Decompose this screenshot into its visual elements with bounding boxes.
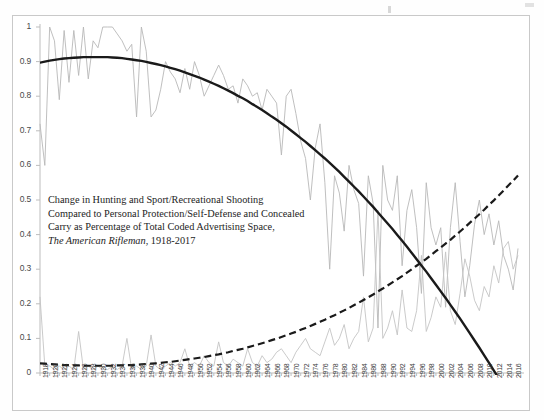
x-axis-tick-label: 1960: [245, 364, 252, 378]
caption-source-title: The American Rifleman: [48, 235, 146, 246]
x-axis-tick-label: 1984: [361, 364, 368, 378]
x-axis-tick-label: 2012: [496, 364, 503, 378]
caption-date-range: , 1918-2017: [146, 235, 196, 246]
x-axis-tick-label: 1950: [197, 364, 204, 378]
x-axis-tick-label: 1968: [283, 364, 290, 378]
x-axis-tick-label: 1990: [390, 364, 397, 378]
chart-figure: 00.10.20.30.40.50.60.70.80.91 1918192019…: [0, 0, 544, 420]
x-axis-tick-label: 1924: [71, 364, 78, 378]
x-axis-tick-label: 1918: [42, 364, 49, 378]
x-axis-tick-label: 1980: [341, 364, 348, 378]
x-axis-tick-label: 1930: [100, 364, 107, 378]
x-axis-tick-label: 2016: [515, 364, 522, 378]
y-axis-tick-label: 0.9: [9, 56, 31, 66]
x-axis-tick-label: 1944: [168, 364, 175, 378]
x-axis-tick-label: 1936: [129, 364, 136, 378]
x-axis-tick-label: 1994: [409, 364, 416, 378]
series-line-hunting-and-sport: [40, 27, 518, 328]
x-axis-tick-label: 1946: [177, 364, 184, 378]
x-axis-tick-label: 2010: [486, 364, 493, 378]
y-axis-tick-label: 0.4: [9, 229, 31, 239]
x-axis-tick-label: 2006: [467, 364, 474, 378]
x-axis-tick-label: 1998: [428, 364, 435, 378]
y-axis-tick-label: 1: [9, 21, 31, 31]
x-axis-tick-label: 1932: [110, 364, 117, 378]
y-axis-tick-label: 0.7: [9, 125, 31, 135]
y-axis-tick-label: 0.6: [9, 159, 31, 169]
caption-line-1: Change in Hunting and Sport/Recreational…: [48, 193, 348, 207]
x-axis-tick-label: 1962: [254, 364, 261, 378]
y-axis-tick-label: 0.8: [9, 90, 31, 100]
x-axis-tick-label: 1978: [332, 364, 339, 378]
x-axis-tick-label: 1992: [399, 364, 406, 378]
x-axis-tick-label: 1976: [322, 364, 329, 378]
y-axis-tick-label: 0.3: [9, 263, 31, 273]
x-axis-tick-label: 1986: [370, 364, 377, 378]
x-axis-tick-label: 1934: [119, 364, 126, 378]
x-axis-tick-label: 1922: [61, 364, 68, 378]
caption-line-2: Compared to Personal Protection/Self-Def…: [48, 207, 348, 221]
caption-line-3: Carry as Percentage of Total Coded Adver…: [48, 220, 348, 234]
scan-artifact-speck: [388, 6, 391, 13]
x-axis-tick-label: 1948: [187, 364, 194, 378]
x-axis-tick-label: 1956: [225, 364, 232, 378]
x-axis-tick-label: 1982: [351, 364, 358, 378]
x-axis-tick-label: 1928: [90, 364, 97, 378]
x-axis-tick-label: 2014: [506, 364, 513, 378]
chart-caption: Change in Hunting and Sport/Recreational…: [48, 193, 348, 247]
y-axis-tick-label: 0.1: [9, 332, 31, 342]
y-axis-tick-label: 0.5: [9, 194, 31, 204]
x-axis-tick-label: 1920: [52, 364, 59, 378]
x-axis-tick-label: 1964: [264, 364, 271, 378]
x-axis-tick-label: 1966: [274, 364, 281, 378]
x-axis-tick-label: 1970: [293, 364, 300, 378]
caption-line-4: The American Rifleman, 1918-2017: [48, 234, 348, 248]
x-axis-tick-label: 2002: [448, 364, 455, 378]
x-axis-tick-label: 1974: [312, 364, 319, 378]
x-axis-tick-label: 1926: [81, 364, 88, 378]
x-axis-tick-label: 2000: [438, 364, 445, 378]
x-axis-tick-label: 1942: [158, 364, 165, 378]
x-axis-tick-label: 1938: [139, 364, 146, 378]
x-axis-tick-label: 1996: [419, 364, 426, 378]
x-axis-tick-label: 2008: [477, 364, 484, 378]
scan-artifact-speck: [525, 3, 534, 7]
x-axis-tick-label: 1972: [303, 364, 310, 378]
y-axis-tick-label: 0: [9, 367, 31, 377]
x-axis-tick-label: 1940: [148, 364, 155, 378]
x-axis-tick-label: 1954: [216, 364, 223, 378]
x-axis-tick-label: 1952: [206, 364, 213, 378]
x-axis-tick-label: 1988: [380, 364, 387, 378]
y-axis-tick-label: 0.2: [9, 298, 31, 308]
x-axis-tick-label: 2004: [457, 364, 464, 378]
x-axis-tick-label: 1958: [235, 364, 242, 378]
